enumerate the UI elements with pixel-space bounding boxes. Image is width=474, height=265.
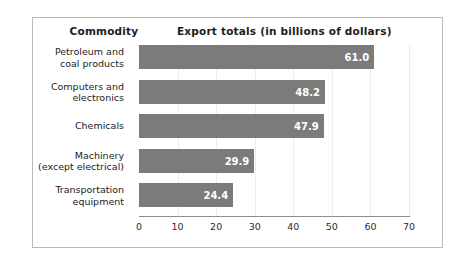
chart-title: Export totals (in billions of dollars) bbox=[177, 25, 392, 37]
bar-row: Transportationequipment24.4 bbox=[33, 183, 442, 207]
x-tick-label: 40 bbox=[287, 221, 299, 232]
bar-value-label: 29.9 bbox=[225, 155, 250, 166]
x-tick-label: 50 bbox=[326, 221, 338, 232]
category-label: Chemicals bbox=[16, 120, 124, 132]
category-label: Transportationequipment bbox=[16, 184, 124, 207]
bar-value-label: 61.0 bbox=[345, 52, 370, 63]
bar: 48.2 bbox=[139, 80, 325, 104]
bar-row: Petroleum andcoal products61.0 bbox=[33, 45, 442, 69]
x-tick-label: 60 bbox=[364, 221, 376, 232]
category-label: Machinery(except electrical) bbox=[16, 149, 124, 172]
bar-value-label: 47.9 bbox=[294, 121, 319, 132]
bar-row: Machinery(except electrical)29.9 bbox=[33, 149, 442, 173]
x-tick-label: 20 bbox=[210, 221, 222, 232]
category-label: Petroleum andcoal products bbox=[16, 46, 124, 69]
bar-row: Computers andelectronics48.2 bbox=[33, 80, 442, 104]
x-tick-label: 30 bbox=[249, 221, 261, 232]
bar: 61.0 bbox=[139, 45, 374, 69]
x-tick-label: 10 bbox=[172, 221, 184, 232]
bar-value-label: 48.2 bbox=[295, 86, 320, 97]
chart-figure: Commodity Export totals (in billions of … bbox=[32, 17, 443, 248]
bar: 24.4 bbox=[139, 183, 233, 207]
bar-value-label: 24.4 bbox=[203, 190, 228, 201]
category-label: Computers andelectronics bbox=[16, 80, 124, 103]
x-tick-label: 0 bbox=[136, 221, 142, 232]
bar: 29.9 bbox=[139, 149, 254, 173]
bar-row: Chemicals47.9 bbox=[33, 114, 442, 138]
x-tick-label: 70 bbox=[403, 221, 415, 232]
bar: 47.9 bbox=[139, 114, 324, 138]
column-header-commodity: Commodity bbox=[67, 25, 141, 37]
x-axis-line bbox=[139, 216, 410, 217]
